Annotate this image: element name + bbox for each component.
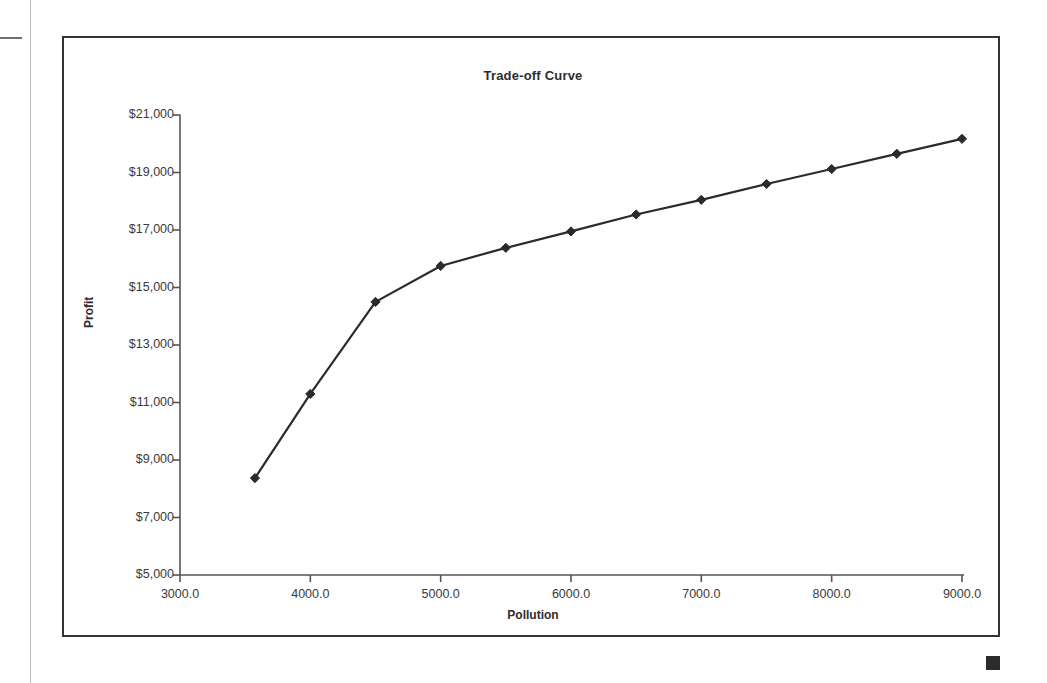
data-point-marker [892,149,901,158]
x-tick-label: 7000.0 [656,587,746,601]
data-point-marker [566,227,575,236]
series-line-0 [255,139,962,478]
y-tick-label: $17,000 [94,222,174,236]
plot-area [64,38,1002,639]
data-point-marker [436,261,445,270]
x-tick-label: 3000.0 [135,587,225,601]
data-point-marker [827,164,836,173]
y-tick-label: $13,000 [94,337,174,351]
y-tick-label: $21,000 [94,107,174,121]
x-tick-label: 8000.0 [787,587,877,601]
x-tick-label: 4000.0 [265,587,355,601]
data-point-marker [697,195,706,204]
data-point-marker [632,210,641,219]
y-tick-label: $9,000 [94,452,174,466]
y-tick-label: $11,000 [94,395,174,409]
y-tick-label: $7,000 [94,510,174,524]
y-tick-label: $5,000 [94,567,174,581]
data-point-marker [762,179,771,188]
page-rule-vertical [30,0,31,683]
data-point-marker [957,134,966,143]
y-tick-label: $19,000 [94,165,174,179]
data-point-marker [501,243,510,252]
corner-mark [986,656,1000,670]
y-tick-label: $15,000 [94,280,174,294]
x-tick-label: 5000.0 [396,587,486,601]
page-rule-horizontal [0,37,22,39]
x-tick-label: 6000.0 [526,587,616,601]
x-tick-label: 9000.0 [917,587,1007,601]
chart-frame: Trade-off Curve Profit Pollution $5,000$… [62,36,1000,637]
